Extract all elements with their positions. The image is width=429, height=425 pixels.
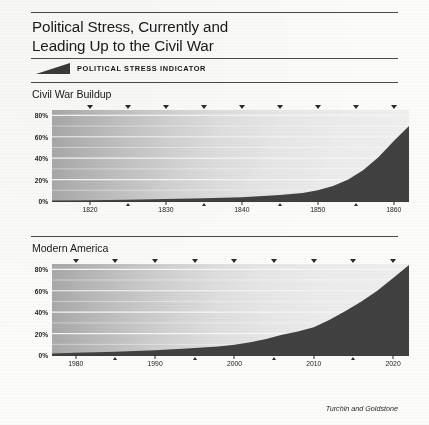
source-credit: Turchin and Goldstone (326, 404, 398, 413)
x-axis-top-tick (311, 259, 317, 263)
plot-area (52, 110, 409, 201)
y-axis-tick-label: 60% (0, 133, 48, 140)
x-axis-minor-tick (113, 357, 117, 360)
rule-above-chart-1 (31, 82, 398, 83)
x-axis-minor-tick (272, 357, 276, 360)
x-axis-top-tick (201, 105, 207, 109)
legend-label: POLITICAL STRESS INDICATOR (77, 64, 206, 73)
y-axis-tick-label: 40% (0, 309, 48, 316)
x-axis-top-tick (192, 259, 198, 263)
x-axis-major-tick (393, 201, 394, 205)
chart-modern-america: Modern America 80%60%40%20%0% 1980199020… (0, 242, 429, 392)
x-axis-minor-tick (278, 203, 282, 206)
x-axis-tick-label: 1850 (310, 206, 325, 213)
y-axis-labels: 80%60%40%20%0% (0, 110, 48, 201)
plot-area (52, 264, 409, 355)
x-axis-major-tick (234, 355, 235, 359)
chart-civil-war-buildup: Civil War Buildup 80%60%40%20%0% 1820183… (0, 88, 429, 228)
x-axis-top-tick (391, 105, 397, 109)
x-axis-line (52, 201, 409, 202)
y-axis-tick-label: 40% (0, 155, 48, 162)
x-axis-top-tick (390, 259, 396, 263)
rule-above-chart-2 (31, 236, 398, 237)
page-title: Political Stress, Currently and Leading … (32, 18, 362, 55)
plot-canvas (52, 110, 409, 201)
x-axis-major-tick (241, 201, 242, 205)
x-axis-tick-label: 2010 (306, 360, 321, 367)
page-title-line-1: Political Stress, Currently and (32, 18, 362, 37)
x-axis-major-tick (155, 355, 156, 359)
x-axis-top-tick (163, 105, 169, 109)
x-axis-top-tick (152, 259, 158, 263)
x-axis-minor-tick (202, 203, 206, 206)
y-axis-tick-label: 80% (0, 266, 48, 273)
x-axis-major-tick (317, 201, 318, 205)
x-axis-top-tick (353, 105, 359, 109)
x-axis-top-tick (277, 105, 283, 109)
plot-canvas (52, 264, 409, 355)
y-axis-tick-label: 80% (0, 112, 48, 119)
x-axis-minor-tick (126, 203, 130, 206)
x-axis-tick-label: 1860 (386, 206, 401, 213)
x-axis-top-tick (125, 105, 131, 109)
x-axis-minor-tick (351, 357, 355, 360)
x-axis-tick-label: 1830 (158, 206, 173, 213)
x-axis-major-tick (313, 355, 314, 359)
x-axis-top-tick (350, 259, 356, 263)
y-axis-tick-label: 0% (0, 198, 48, 205)
chart-title: Civil War Buildup (32, 88, 111, 100)
x-axis-major-tick (393, 355, 394, 359)
x-axis-top-tick (271, 259, 277, 263)
x-axis-major-tick (75, 355, 76, 359)
x-axis-top-tick (73, 259, 79, 263)
chart-title: Modern America (32, 242, 108, 254)
x-axis-tick-label: 1820 (82, 206, 97, 213)
x-axis-top-tick (112, 259, 118, 263)
x-axis-tick-label: 2000 (227, 360, 242, 367)
y-axis-tick-label: 60% (0, 287, 48, 294)
infographic-page: Political Stress, Currently and Leading … (0, 0, 429, 425)
x-axis-tick-label: 2020 (386, 360, 401, 367)
x-axis-top-tick (315, 105, 321, 109)
x-axis-tick-label: 1840 (234, 206, 249, 213)
x-axis-minor-tick (354, 203, 358, 206)
x-axis-top-tick (87, 105, 93, 109)
y-axis-tick-label: 20% (0, 330, 48, 337)
x-axis-major-tick (89, 201, 90, 205)
x-axis-tick-label: 1990 (148, 360, 163, 367)
rule-under-title (31, 58, 398, 59)
legend: POLITICAL STRESS INDICATOR (36, 62, 206, 75)
x-axis-top-tick (239, 105, 245, 109)
y-axis-labels: 80%60%40%20%0% (0, 264, 48, 355)
x-axis-top-tick (231, 259, 237, 263)
x-axis-line (52, 355, 409, 356)
x-axis-tick-label: 1980 (68, 360, 83, 367)
rising-wedge-icon (36, 63, 70, 74)
y-axis-tick-label: 20% (0, 176, 48, 183)
x-axis-major-tick (165, 201, 166, 205)
rule-top (31, 12, 398, 13)
y-axis-tick-label: 0% (0, 352, 48, 359)
page-title-line-2: Leading Up to the Civil War (32, 37, 362, 56)
x-axis-minor-tick (193, 357, 197, 360)
